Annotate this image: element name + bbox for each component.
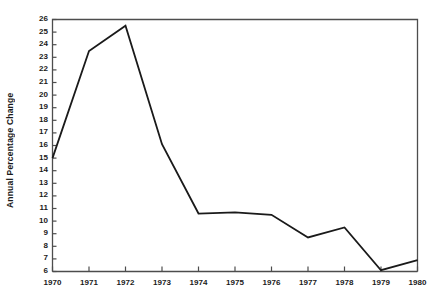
y-axis-tick-text: 25 bbox=[39, 28, 48, 36]
y-axis-tick-text: 18 bbox=[39, 116, 48, 124]
axis-frame bbox=[53, 20, 418, 272]
y-axis-tick-label: 24 bbox=[26, 40, 48, 49]
y-axis-tick-label: 18 bbox=[26, 116, 48, 125]
x-axis-tick-label: 1976 bbox=[255, 279, 289, 287]
y-axis-tick-text: 14 bbox=[39, 166, 48, 174]
y-axis-tick-label: 17 bbox=[26, 128, 48, 137]
y-axis-tick-label: 7 bbox=[26, 254, 48, 263]
y-axis-tick-label: 12 bbox=[26, 191, 48, 200]
x-axis-tick-label: 1980 bbox=[401, 279, 433, 287]
y-axis-tick-label: 26 bbox=[26, 15, 48, 24]
y-axis-tick-label: 6 bbox=[26, 267, 48, 276]
y-axis-tick-label: 19 bbox=[26, 103, 48, 112]
y-axis-tick-label: 11 bbox=[26, 204, 48, 213]
y-axis-tick-text: 17 bbox=[39, 128, 48, 136]
x-axis-tick-label: 1970 bbox=[36, 279, 70, 287]
x-axis-tick-label: 1974 bbox=[182, 279, 216, 287]
data-series-line bbox=[53, 26, 418, 270]
y-axis-tick-label: 14 bbox=[26, 166, 48, 175]
plot-area bbox=[0, 0, 433, 299]
y-axis-tick-label: 15 bbox=[26, 154, 48, 163]
y-axis-tick-text: 24 bbox=[39, 40, 48, 48]
x-axis-tick-label: 1971 bbox=[72, 279, 106, 287]
y-axis-tick-text: 21 bbox=[39, 78, 48, 86]
x-axis-tick-label: 1972 bbox=[109, 279, 143, 287]
y-axis-tick-label: 16 bbox=[26, 141, 48, 150]
y-axis-tick-text: 19 bbox=[39, 103, 48, 111]
y-axis-tick-text: 11 bbox=[40, 204, 48, 212]
y-axis-tick-text: 10 bbox=[39, 217, 48, 225]
y-axis-tick-text: 26 bbox=[39, 15, 48, 23]
y-axis-tick-label: 10 bbox=[26, 217, 48, 226]
x-axis-tick-label: 1975 bbox=[218, 279, 252, 287]
y-axis-tick-label: 9 bbox=[26, 229, 48, 238]
y-axis-tick-text: 22 bbox=[39, 65, 48, 73]
y-axis-tick-text: 15 bbox=[39, 154, 48, 162]
y-axis-tick-text: 20 bbox=[39, 91, 48, 99]
y-axis-tick-label: 21 bbox=[26, 78, 48, 87]
y-axis-tick-text: 8 bbox=[44, 242, 48, 250]
x-axis-tick-label: 1978 bbox=[328, 279, 362, 287]
y-axis-tick-label: 23 bbox=[26, 53, 48, 62]
line-chart-figure: Annual Percentage Change 262524232221201… bbox=[0, 0, 433, 299]
x-axis-tick-label: 1973 bbox=[145, 279, 179, 287]
y-axis-tick-label: 8 bbox=[26, 242, 48, 251]
x-axis-tick-marks bbox=[53, 267, 418, 272]
y-axis-tick-text: 7 bbox=[44, 254, 48, 262]
y-axis-tick-label: 25 bbox=[26, 28, 48, 37]
x-axis-tick-label: 1977 bbox=[291, 279, 325, 287]
y-axis-tick-text: 16 bbox=[39, 141, 48, 149]
y-axis-tick-text: 12 bbox=[39, 191, 48, 199]
y-axis-tick-text: 6 bbox=[44, 267, 48, 275]
y-axis-tick-text: 23 bbox=[39, 53, 48, 61]
y-axis-tick-text: 9 bbox=[44, 229, 48, 237]
y-axis-tick-text: 13 bbox=[39, 179, 48, 187]
y-axis-tick-label: 20 bbox=[26, 91, 48, 100]
y-axis-tick-label: 22 bbox=[26, 65, 48, 74]
x-axis-tick-label: 1979 bbox=[364, 279, 398, 287]
y-axis-title: Annual Percentage Change bbox=[2, 50, 18, 250]
y-axis-tick-label: 13 bbox=[26, 179, 48, 188]
